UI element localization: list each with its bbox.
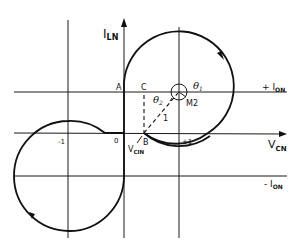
theta1-label: θ1 xyxy=(193,80,203,92)
tick-minus-one: -1 xyxy=(58,138,65,146)
vcn-axis xyxy=(14,133,285,134)
plus-ion-label: + ION xyxy=(262,82,285,93)
vcn-axis-label: VCN xyxy=(268,138,287,153)
theta2-label: θ2 xyxy=(153,94,163,106)
point-b-label: B xyxy=(143,138,149,147)
vcin-pointer-line xyxy=(137,136,142,143)
point-c-label: C xyxy=(141,83,147,92)
tick-plus-one: +1 xyxy=(182,138,192,146)
iln-axis-label: ILN xyxy=(103,27,118,42)
phase-plane-diagram: ILN VCN + ION - ION -1 0 +1 A C B M2 VCI… xyxy=(0,0,303,251)
tick-origin: 0 xyxy=(114,137,118,145)
minus-ion-label: - ION xyxy=(264,179,283,190)
iln-axis-arrow-icon xyxy=(121,18,127,27)
point-a-label: A xyxy=(116,83,122,92)
point-m2-label: M2 xyxy=(186,99,198,108)
vcn-axis-arrow-icon xyxy=(279,131,287,137)
m2-tick-line xyxy=(179,92,186,97)
radius-label: 1 xyxy=(163,114,168,123)
